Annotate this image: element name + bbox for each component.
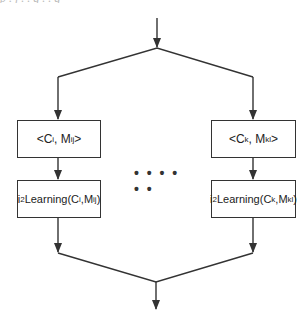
merge-lines	[58, 253, 253, 282]
pair-box-right: <Ck, Mkl>	[211, 120, 296, 158]
learning-label: )	[97, 193, 101, 205]
learning-label: Learning(C	[25, 193, 79, 205]
pair-label: <C	[37, 132, 53, 146]
arrowhead-icon	[152, 300, 160, 310]
pair-label: <C	[229, 132, 245, 146]
arrowhead-icon	[249, 110, 257, 120]
split-lines	[58, 48, 253, 77]
learning-label: )	[293, 193, 297, 205]
arrowhead-icon	[153, 38, 161, 48]
pair-label: , M	[249, 132, 266, 146]
arrowhead-icon	[54, 110, 62, 120]
arrowhead-icon	[54, 170, 62, 180]
learning-label: ,M	[81, 193, 93, 205]
arrowhead-icon	[249, 243, 257, 253]
ellipsis-dots: • • • • • •	[134, 165, 184, 179]
arrowhead-icon	[249, 170, 257, 180]
pair-box-left: <Ci, Mij>	[17, 120, 101, 158]
pair-label: , M	[54, 132, 71, 146]
learning-box-right: i2Learning(Ck,Mkl)	[211, 180, 296, 218]
learning-label: ,M	[275, 193, 287, 205]
flow-connectors	[0, 0, 308, 320]
learning-box-left: i2Learning(Ci,Mij)	[17, 180, 101, 218]
learning-label: Learning(C	[217, 193, 271, 205]
pair-label: >	[271, 132, 278, 146]
pair-label: >	[74, 132, 81, 146]
arrowhead-icon	[54, 243, 62, 253]
